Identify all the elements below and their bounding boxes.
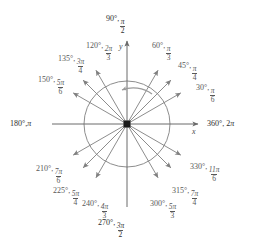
fraction-numerator: π: [210, 87, 216, 95]
fraction-numerator: π: [166, 45, 172, 53]
angle-label-240: 240°,4π3: [82, 200, 110, 219]
fraction: 5π4: [71, 190, 81, 206]
fraction-denominator: 6: [210, 95, 216, 104]
fraction-numerator: 5π: [56, 79, 66, 87]
fraction: π6: [210, 87, 216, 103]
fraction-numerator: 5π: [71, 190, 81, 198]
angle-label-360: 360°, 2π: [207, 120, 234, 128]
fraction-denominator: 2: [120, 26, 126, 35]
fraction-numerator: 4π: [100, 203, 110, 211]
fraction: 7π6: [54, 168, 64, 184]
fraction-denominator: 4: [192, 73, 198, 82]
angle-label-150: 150°,5π6: [38, 76, 66, 95]
fraction: 3π4: [76, 58, 86, 74]
fraction-denominator: 6: [211, 174, 217, 183]
fraction-numerator: 7π: [190, 190, 200, 198]
fraction: π4: [192, 65, 198, 81]
y-axis-label: y: [119, 42, 123, 51]
angle-label-225: 225°,5π4: [53, 187, 81, 206]
fraction: 4π3: [100, 203, 110, 219]
fraction-denominator: 3: [166, 53, 172, 62]
angle-label-270: 270°,3π2: [98, 219, 126, 238]
fraction: 7π4: [190, 190, 200, 206]
fraction-denominator: 2: [118, 230, 124, 239]
fraction-numerator: 2π: [104, 45, 114, 53]
fraction-denominator: 3: [170, 211, 176, 220]
fraction-numerator: 3π: [116, 222, 126, 230]
fraction-numerator: 7π: [54, 168, 64, 176]
origin-dot: [124, 121, 131, 128]
angle-label-180: 180°,π: [10, 120, 31, 128]
fraction-denominator: 6: [56, 176, 62, 185]
x-axis-label: x: [192, 127, 196, 136]
angle-label-210: 210°,7π6: [36, 165, 64, 184]
fraction-numerator: π: [120, 18, 126, 26]
fraction-numerator: π: [192, 65, 198, 73]
angle-label-135: 135°,3π4: [58, 55, 86, 74]
fraction-denominator: 4: [78, 66, 84, 75]
angle-label-120: 120°,2π3: [86, 42, 114, 61]
fraction-numerator: 11π: [208, 166, 221, 174]
fraction-denominator: 3: [106, 53, 112, 62]
angle-label-45: 45°,π4: [178, 62, 198, 81]
fraction-denominator: 4: [192, 198, 198, 207]
fraction-numerator: 3π: [76, 58, 86, 66]
angle-label-30: 30°,π6: [196, 84, 216, 103]
angle-label-60: 60°,π3: [152, 42, 172, 61]
angle-label-315: 315°,7π4: [172, 187, 200, 206]
fraction: 11π6: [208, 166, 221, 182]
angle-label-90: 90°,π2: [106, 15, 126, 34]
fraction-denominator: 4: [73, 198, 79, 207]
fraction: 3π2: [116, 222, 126, 238]
fraction: 5π6: [56, 79, 66, 95]
fraction: π2: [120, 18, 126, 34]
fraction: 2π3: [104, 45, 114, 61]
unit-circle-diagram: y x 30°,π645°,π460°,π3120°,2π3135°,3π415…: [0, 0, 266, 241]
fraction-denominator: 6: [58, 87, 64, 96]
angle-label-330: 330°,11π6: [190, 163, 221, 182]
fraction: π3: [166, 45, 172, 61]
